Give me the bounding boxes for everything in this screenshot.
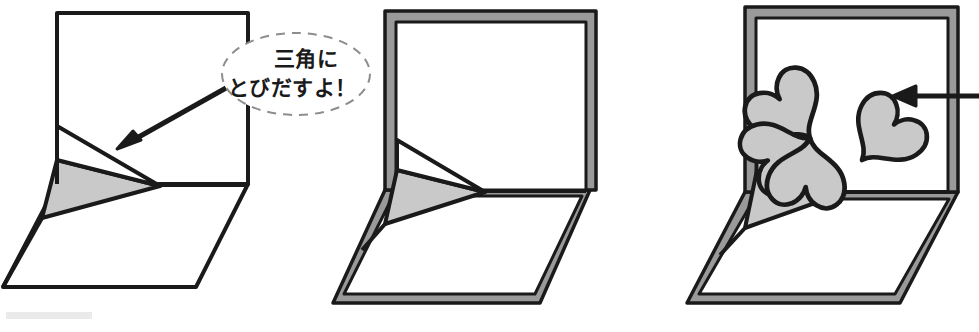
panel-3-finished-card [687,7,979,303]
callout-line-2: とびだすよ！ [228,76,357,100]
figure-canvas: 三角に とびだすよ！ [0,0,979,332]
speech-bubble: 三角に とびだすよ！ [222,33,370,115]
pop-up-card-steps-illustration: 三角に とびだすよ！ [0,0,979,332]
speech-bubble-outline [222,33,370,115]
panel-2-framed-card [333,11,596,303]
scan-artifact [6,312,92,319]
panel-1-lower-flap [3,184,248,287]
callout-line-1: 三角に [274,47,339,71]
panel-1-plain-card: 三角に とびだすよ！ [3,13,370,287]
